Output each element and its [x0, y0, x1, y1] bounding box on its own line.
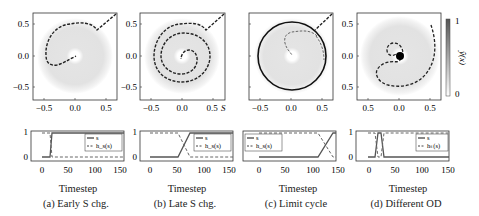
ts-x-tick-d-0: 0: [367, 165, 372, 175]
ts-x-tick-c-2: 100: [306, 165, 320, 175]
caption-d: (d) Different OD: [352, 198, 460, 209]
x-tick-c-2: 0.5: [316, 103, 328, 113]
y-tick-b-0: 0.5: [126, 19, 138, 29]
x-tick-c-1: 0.0: [285, 103, 297, 113]
ts-y-tick-a-0: 0: [24, 152, 29, 162]
x-tick-b-2: 0.5: [206, 103, 218, 113]
phase-plot-c: [249, 13, 333, 100]
caption-c: (c) Limit cycle: [242, 198, 350, 209]
ts-x-tick-a-1: 50: [64, 165, 74, 175]
x-tick-d-0: 0.5: [362, 103, 374, 113]
ts-x-tick-a-3: 150: [113, 165, 127, 175]
ts-y-tick-d-0: 0: [349, 152, 354, 162]
ts-x-tick-c-0: 0: [257, 165, 262, 175]
ts-y-tick-a-1: 1: [24, 127, 29, 137]
ts-x-tick-d-1: 50: [391, 165, 401, 175]
ts-x-tick-c-1: 50: [281, 165, 291, 175]
x-tick-c-0: −0.5: [252, 103, 269, 113]
legend-h-a: h_s(s): [96, 142, 112, 150]
timestep-label-a: Timestep: [24, 183, 132, 194]
ts-x-tick-b-3: 150: [222, 165, 236, 175]
ts-y-tick-d-1: 1: [349, 127, 354, 137]
ts-x-tick-c-3: 150: [331, 165, 345, 175]
ts-x-tick-b-1: 50: [173, 165, 183, 175]
y-tick-d-2: 0.5: [342, 82, 354, 92]
x-tick-a-1: 0.0: [69, 103, 81, 113]
x-tick-a-2: 0.5: [100, 103, 112, 113]
y-tick-b-2: −0.5: [121, 82, 138, 92]
phase-plot-d: [357, 13, 441, 100]
legend-h-c: h_s(s): [256, 142, 272, 150]
y-tick-a-2: −0.5: [13, 82, 30, 92]
timestep-label-b: Timestep: [133, 183, 241, 194]
ts-x-tick-b-2: 100: [197, 165, 211, 175]
s-axis-label: S: [221, 103, 226, 113]
phase-plot-b: [140, 13, 225, 100]
x-tick-d-1: 0.0: [393, 103, 405, 113]
x-tick-d-2: 0.5: [424, 103, 436, 113]
y-tick-a-1: 0.0: [18, 51, 30, 61]
timestep-label-d: Timestep: [354, 183, 462, 194]
colorbar-min: 0: [455, 89, 460, 99]
legend-h-d: hₛ(s): [427, 142, 440, 150]
ts-x-tick-b-0: 0: [148, 165, 153, 175]
ts-y-tick-b-0: 0: [133, 152, 138, 162]
phase-plot-a: [33, 13, 117, 100]
colorbar: [446, 19, 450, 96]
y-tick-d-0: 0.5: [342, 19, 354, 29]
y-tick-b-1: 0.0: [126, 51, 138, 61]
colorbar-max: 1: [455, 16, 460, 26]
ts-x-tick-a-0: 0: [40, 165, 45, 175]
legend-h-b: h_s(s): [205, 142, 221, 150]
colorbar-label: ŷ(x): [458, 50, 468, 65]
x-tick-b-0: −0.5: [143, 103, 160, 113]
x-tick-b-1: 0.0: [176, 103, 188, 113]
caption-b: (b) Late S chg.: [131, 198, 239, 209]
x-tick-a-0: −0.5: [36, 103, 53, 113]
ts-x-tick-d-2: 100: [415, 165, 429, 175]
ts-y-tick-b-1: 1: [133, 127, 138, 137]
y-tick-a-0: 0.5: [18, 19, 30, 29]
ts-x-tick-d-3: 150: [441, 165, 455, 175]
ts-x-tick-a-2: 100: [88, 165, 102, 175]
timestep-label-c: Timestep: [244, 183, 352, 194]
caption-a: (a) Early S chg.: [22, 198, 130, 209]
y-tick-d-1: 0.0: [342, 51, 354, 61]
